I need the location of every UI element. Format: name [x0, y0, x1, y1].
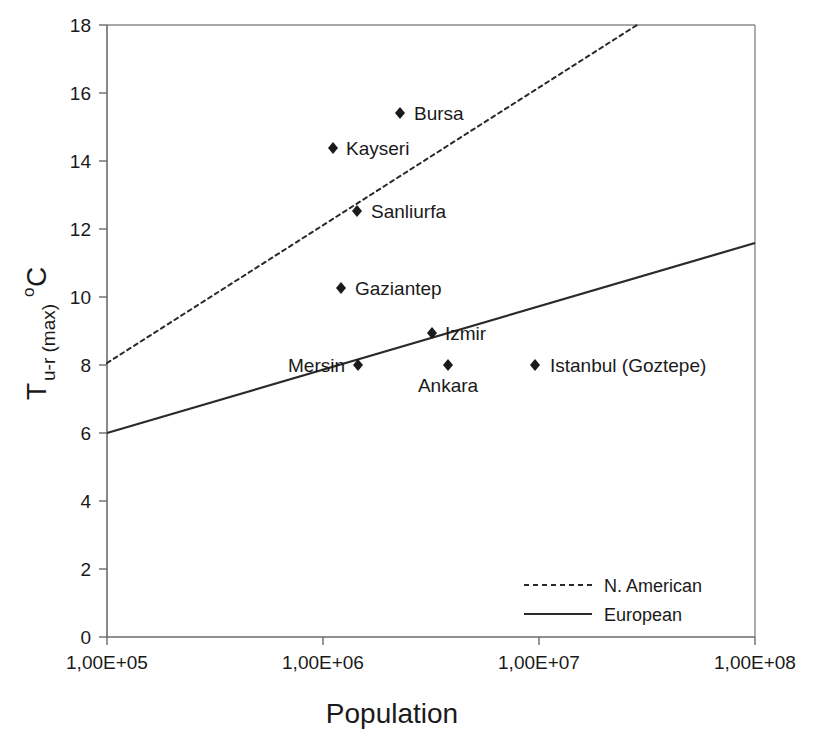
y-tick-label-12: 12 — [70, 219, 91, 240]
x-tick-label-1e6: 1,00E+06 — [282, 652, 364, 673]
data-label-bursa: Bursa — [414, 103, 464, 124]
data-label-ankara: Ankara — [418, 375, 479, 396]
chart-figure: 0 2 4 6 8 10 12 14 16 18 1,00E+05 1,00E+… — [0, 0, 813, 744]
data-label-gaziantep: Gaziantep — [355, 278, 442, 299]
legend-label-n-american: N. American — [604, 576, 702, 596]
y-axis-title-subscript: u-r (max) — [38, 304, 59, 381]
data-label-mersin: Mersin — [288, 355, 345, 376]
data-label-sanliurfa: Sanliurfa — [371, 201, 446, 222]
y-tick-label-16: 16 — [70, 83, 91, 104]
legend-label-european: European — [604, 605, 682, 625]
y-axis-title-main: T — [21, 383, 52, 400]
scatter-plot-svg: 0 2 4 6 8 10 12 14 16 18 1,00E+05 1,00E+… — [0, 0, 813, 744]
x-tick-label-1e8: 1,00E+08 — [714, 652, 796, 673]
x-axis-title: Population — [326, 698, 458, 729]
y-tick-label-0: 0 — [80, 627, 91, 648]
x-tick-label-1e5: 1,00E+05 — [66, 652, 148, 673]
x-tick-label-1e7: 1,00E+07 — [498, 652, 580, 673]
y-tick-label-2: 2 — [80, 559, 91, 580]
y-tick-label-8: 8 — [80, 355, 91, 376]
data-label-izmir: Izmir — [445, 323, 487, 344]
y-tick-label-6: 6 — [80, 423, 91, 444]
data-label-kayseri: Kayseri — [346, 138, 409, 159]
y-tick-label-18: 18 — [70, 15, 91, 36]
y-tick-label-4: 4 — [80, 491, 91, 512]
y-axis-title-degree-icon: o — [19, 288, 38, 297]
y-tick-label-10: 10 — [70, 287, 91, 308]
data-label-istanbul: Istanbul (Goztepe) — [550, 355, 706, 376]
y-tick-label-14: 14 — [70, 151, 92, 172]
y-axis-title-unit: C — [21, 267, 52, 287]
